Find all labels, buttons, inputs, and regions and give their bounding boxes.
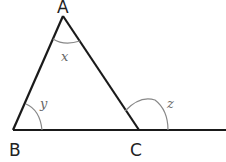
angle-label-z: z xyxy=(166,96,174,111)
side-ab xyxy=(13,16,63,130)
diagram-canvas: A B C x y z xyxy=(0,0,226,162)
vertex-label-c: C xyxy=(130,140,142,160)
vertex-label-b: B xyxy=(9,140,21,160)
angle-z-arc xyxy=(125,99,168,130)
angle-label-y: y xyxy=(39,96,48,111)
angle-label-x: x xyxy=(61,49,69,64)
vertex-label-a: A xyxy=(57,0,69,17)
triangle-diagram: A B C x y z xyxy=(0,0,226,162)
angle-x-arc xyxy=(53,39,80,43)
side-ac xyxy=(63,16,139,130)
